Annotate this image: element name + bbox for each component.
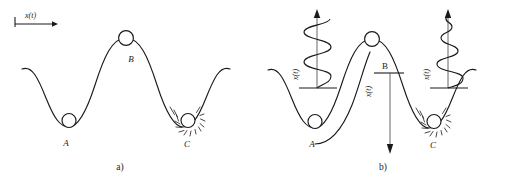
trace-a-waveform xyxy=(304,19,331,88)
trace-b-arrowhead xyxy=(387,144,393,154)
trace-a-group: x(t) xyxy=(291,9,337,88)
label-a: A xyxy=(62,138,69,148)
label-c-b: C xyxy=(430,140,437,150)
panel-a: x(t) A B xyxy=(15,11,230,173)
ball-c xyxy=(181,114,195,128)
trace-c-waveform xyxy=(437,11,463,88)
panel-b-caption: b) xyxy=(379,162,387,173)
ball-b xyxy=(119,31,134,46)
panel-a-axis-indicator: x(t) xyxy=(15,11,58,27)
panel-b: x(t) B x(t) x(t) A xyxy=(268,9,476,173)
ball-b-group: B xyxy=(119,31,135,64)
ball-c-b xyxy=(427,115,441,129)
potential-curve-b-stub xyxy=(315,52,370,144)
figure-canvas: x(t) A B xyxy=(0,0,507,189)
label-c: C xyxy=(184,139,191,149)
trace-a-arrowhead xyxy=(314,9,320,18)
label-b: B xyxy=(128,54,134,64)
trace-c-group: x(t) xyxy=(422,9,468,88)
ball-a-b xyxy=(308,115,322,129)
trace-b-axis-label: x(t) xyxy=(364,86,373,98)
ball-c-group-b: C xyxy=(416,108,451,150)
ball-a xyxy=(62,114,76,128)
label-a-b: A xyxy=(308,139,315,149)
axis-arrowhead xyxy=(52,21,58,27)
ball-c-group: C xyxy=(170,107,205,149)
trace-b-point-label: B xyxy=(382,61,388,71)
ball-b-group-b xyxy=(365,32,380,47)
trace-b-group: B x(t) xyxy=(364,61,404,154)
potential-curve-b-left xyxy=(268,39,372,128)
panel-a-caption: a) xyxy=(116,162,123,173)
ball-b-b xyxy=(365,32,380,47)
potential-curve-a xyxy=(22,38,230,127)
trace-a-axis-label: x(t) xyxy=(291,69,300,81)
ball-a-group: A xyxy=(62,114,76,149)
panel-a-axis-label: x(t) xyxy=(24,11,36,20)
physics-figure: x(t) A B xyxy=(0,0,507,189)
trace-c-axis-label: x(t) xyxy=(422,69,431,81)
